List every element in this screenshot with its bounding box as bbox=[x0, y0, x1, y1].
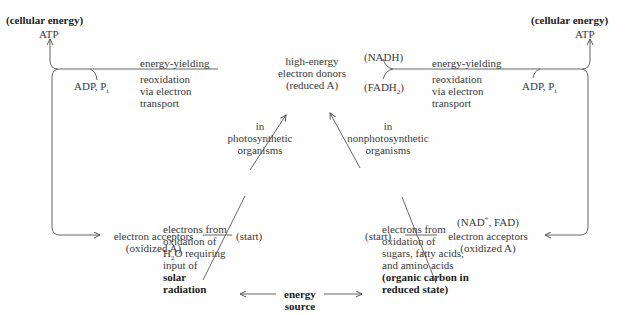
right-cellular-energy-label: (cellular energy) bbox=[531, 14, 608, 26]
reduced-state-label: reduced state) bbox=[382, 283, 448, 295]
right-adp-label: ADP, Pi bbox=[522, 80, 556, 92]
solar-label: solar bbox=[163, 271, 186, 283]
left-adp-label: ADP, Pi bbox=[74, 80, 108, 92]
energy-source-line1: energy bbox=[276, 288, 324, 300]
diagram-lines bbox=[0, 0, 640, 315]
photo-org-line2: photosynthetic bbox=[220, 132, 300, 144]
left-source-line4: input of bbox=[163, 259, 198, 271]
nonphoto-org-line1: in bbox=[338, 120, 438, 132]
left-process-line2: reoxidation bbox=[140, 73, 190, 85]
right-atp-label: ATP bbox=[575, 28, 595, 40]
right-cofactors-label: (NAD+, FAD) bbox=[432, 216, 544, 228]
right-source-line4: and amino acids bbox=[382, 259, 453, 271]
donors-line2: electron donors bbox=[262, 67, 362, 79]
right-source-line2: oxidation of bbox=[382, 235, 435, 247]
left-start-label: (start) bbox=[236, 230, 262, 242]
organic-carbon-label: (organic carbon in bbox=[382, 271, 469, 283]
nonphoto-org-line2: nonphotosynthetic bbox=[338, 132, 438, 144]
left-process-line3: via electron bbox=[140, 85, 192, 97]
photo-org-line3: organisms bbox=[220, 144, 300, 156]
fadh2-label: (FADH2) bbox=[364, 81, 404, 93]
radiation-label: radiation bbox=[163, 283, 206, 295]
left-process-line4: transport bbox=[140, 97, 179, 109]
donors-line3: (reduced A) bbox=[262, 79, 362, 91]
left-source-line1: electrons from bbox=[163, 223, 227, 235]
energy-cycle-diagram: (cellular energy) ATP ADP, Pi energy-yie… bbox=[0, 0, 640, 315]
left-process-line1: energy-yielding bbox=[140, 57, 209, 69]
right-process-line2: reoxidation bbox=[432, 73, 482, 85]
right-process-line1: energy-yielding bbox=[432, 57, 501, 69]
right-source-line3: sugars, fatty acids, bbox=[382, 247, 464, 259]
photo-org-line1: in bbox=[220, 120, 300, 132]
donors-line1: high-energy bbox=[262, 55, 362, 67]
nonphoto-org-line3: organisms bbox=[338, 144, 438, 156]
right-process-line4: transport bbox=[432, 97, 471, 109]
left-atp-label: ATP bbox=[39, 28, 59, 40]
left-cellular-energy-label: (cellular energy) bbox=[6, 14, 83, 26]
left-source-line2: oxidation of bbox=[163, 235, 216, 247]
left-source-line3: H2O requiring bbox=[163, 247, 225, 259]
right-source-line1: electrons from bbox=[382, 223, 446, 235]
right-acceptors-line1: electron acceptors bbox=[432, 230, 544, 242]
nadh-label: (NADH) bbox=[364, 51, 403, 63]
right-process-line3: via electron bbox=[432, 85, 484, 97]
energy-source-line2: source bbox=[276, 300, 324, 312]
